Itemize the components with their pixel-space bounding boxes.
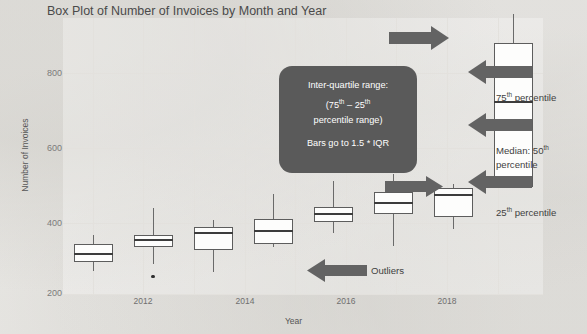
- gridline-x-3: [194, 18, 195, 294]
- outlier-2015-0: [331, 266, 334, 269]
- p75-label: 75th percentile: [496, 88, 556, 105]
- callout-line-1: Inter-quartile range:: [279, 78, 417, 94]
- x-tick-2018: 2018: [417, 296, 477, 306]
- median-line-2013: [194, 232, 233, 234]
- box-2017: [434, 188, 473, 217]
- y-axis-label: Number of Invoices: [20, 95, 30, 215]
- gridline-y-400: [63, 223, 543, 224]
- gridline-x-2012: [143, 18, 144, 294]
- iqr-callout: Inter-quartile range: (75th – 25th perce…: [279, 66, 417, 173]
- y-tick-400: 400: [28, 218, 62, 228]
- y-tick-200: 200: [28, 288, 62, 298]
- median-line-2014: [254, 230, 293, 232]
- median-line-2017: [434, 194, 473, 196]
- median-line-2015: [314, 213, 353, 215]
- p25-label: 25th percentile: [496, 203, 556, 220]
- x-tick-2014: 2014: [215, 296, 275, 306]
- outliers-label: Outliers: [371, 264, 404, 278]
- gridline-x-2018: [447, 18, 448, 294]
- y-tick-800: 800: [28, 68, 62, 78]
- x-axis-label: Year: [0, 316, 587, 326]
- median-line-2011: [74, 253, 113, 255]
- median-line-2012: [134, 239, 173, 241]
- median-label: Median: 50thpercentile: [496, 141, 584, 171]
- x-tick-2016: 2016: [316, 296, 376, 306]
- y-tick-600: 600: [28, 143, 62, 153]
- chart-title: Box Plot of Number of Invoices by Month …: [47, 4, 326, 18]
- callout-line-4: Bars go to 1.5 * IQR: [279, 136, 417, 152]
- callout-line-3: percentile range): [279, 113, 417, 129]
- box-plot-figure: Box Plot of Number of Invoices by Month …: [0, 0, 587, 334]
- gridline-y-200: [63, 294, 543, 295]
- callout-line-2: (75th – 25th: [279, 94, 417, 114]
- gridline-x-2014: [245, 18, 246, 294]
- x-tick-2012: 2012: [113, 296, 173, 306]
- outlier-2012-0: [151, 275, 154, 278]
- median-line-2016: [374, 202, 413, 204]
